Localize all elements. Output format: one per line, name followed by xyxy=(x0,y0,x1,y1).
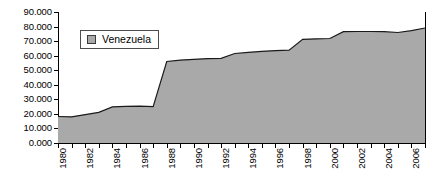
y-axis-tick-label: 40.000 xyxy=(0,80,52,90)
x-axis-tick-label: 1990 xyxy=(194,148,204,169)
y-axis-tick-label: 10.000 xyxy=(0,123,52,133)
x-axis-tick-label: 1998 xyxy=(303,148,313,169)
x-axis-tick-label: 2000 xyxy=(330,148,340,169)
area-chart: 90.00080.00070.00060.00050.00040.00030.0… xyxy=(0,0,438,193)
x-axis-tick-label: 1988 xyxy=(167,148,177,169)
x-axis-tick-label: 2004 xyxy=(384,148,394,169)
y-axis-labels: 90.00080.00070.00060.00050.00040.00030.0… xyxy=(0,0,52,193)
legend-entry-label: Venezuela xyxy=(102,34,151,45)
y-axis-tick-label: 80.000 xyxy=(0,22,52,32)
x-axis-tick-label: 1996 xyxy=(275,148,285,169)
x-axis-tick-label: 1992 xyxy=(221,148,231,169)
y-axis-tick-label: 50.000 xyxy=(0,65,52,75)
x-axis-tick-label: 1982 xyxy=(85,148,95,169)
x-axis-tick-label: 1994 xyxy=(248,148,258,169)
legend-swatch-icon xyxy=(87,35,96,44)
y-axis-tick-label: 70.000 xyxy=(0,36,52,46)
x-axis-tick-label: 1986 xyxy=(140,148,150,169)
y-axis-tick-label: 30.000 xyxy=(0,94,52,104)
chart-legend: Venezuela xyxy=(80,30,159,49)
x-axis-tick-label: 2002 xyxy=(357,148,367,169)
y-axis-tick-label: 0.000 xyxy=(0,138,52,148)
x-axis-tick-label: 1984 xyxy=(112,148,122,169)
x-axis-tick-label: 1980 xyxy=(58,148,68,169)
x-axis-labels: 1980198219841986198819901992199419961998… xyxy=(58,148,426,193)
y-axis-tick-label: 20.000 xyxy=(0,109,52,119)
x-axis-tick-label: 2006 xyxy=(411,148,421,169)
y-axis-tick-label: 60.000 xyxy=(0,51,52,61)
y-axis-tick-label: 90.000 xyxy=(0,7,52,17)
